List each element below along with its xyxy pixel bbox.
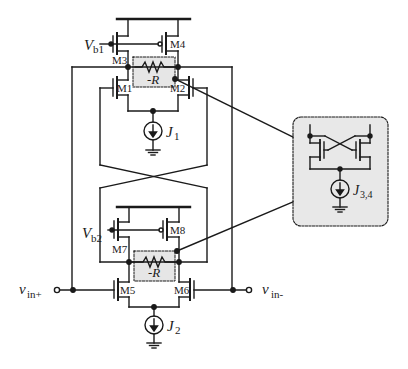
label-j2: J: [167, 318, 175, 334]
label-vin-minus: v: [262, 281, 269, 297]
label-j1-sub: 1: [174, 130, 180, 142]
schematic: V b1 M3 M4 -R M1 M2 J 1 V b2 M7 M8 -R M5…: [0, 0, 408, 369]
label-negR-bottom: -R: [148, 265, 160, 280]
label-m4: M4: [170, 38, 186, 50]
vin-minus-terminal[interactable]: [246, 287, 251, 292]
label-m3: M3: [112, 54, 128, 66]
vin-plus-terminal[interactable]: [54, 287, 59, 292]
label-m6: M6: [174, 284, 190, 296]
label-vin-plus-sub: in+: [27, 288, 42, 300]
label-j1: J: [166, 124, 174, 140]
label-j34-sub: 3,4: [360, 189, 373, 200]
label-vin-plus: v: [19, 281, 26, 297]
label-j2-sub: 2: [175, 324, 181, 336]
pointer-line-top: [175, 79, 293, 137]
current-source-j1: [144, 122, 162, 155]
label-vb2-sub: b2: [91, 232, 102, 244]
label-m1: M1: [117, 82, 132, 94]
label-m7: M7: [112, 243, 128, 255]
current-source-j2: [145, 316, 163, 348]
label-j34: J: [353, 183, 360, 198]
label-negR-top: -R: [147, 72, 159, 87]
label-m5: M5: [120, 284, 136, 296]
label-m8: M8: [170, 224, 186, 236]
pointer-line-bottom: [177, 202, 293, 251]
circuit-diagram: V b1 M3 M4 -R M1 M2 J 1 V b2 M7 M8 -R M5…: [0, 0, 408, 369]
label-m2: M2: [170, 82, 185, 94]
label-vin-minus-sub: in-: [271, 288, 284, 300]
top-stage: [72, 19, 232, 155]
label-vb1-sub: b1: [93, 43, 104, 55]
